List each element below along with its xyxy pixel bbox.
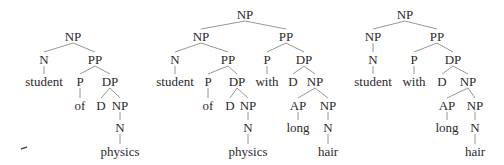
tree-leaf-word: physics <box>229 144 268 159</box>
tree-node-category: NP <box>397 7 414 22</box>
tree-leaf-word: hair <box>318 144 339 159</box>
tree-branch <box>468 88 475 98</box>
tree-node-category: N <box>368 52 378 67</box>
tree-node-category: AP <box>290 98 307 113</box>
tree-node-category: AP <box>439 98 456 113</box>
tree-node-category: NP <box>365 29 382 44</box>
tree-1: NPNPPstudentPDPofDNPNphysics <box>25 29 139 159</box>
tree-node-category: N <box>39 52 49 67</box>
tree-node-category: N <box>470 120 480 135</box>
tree-branch <box>293 66 304 74</box>
tree-2: NPNPPPNPPPDPstudentPDPwithDNPofDNPAPNPNl… <box>156 7 339 159</box>
tree-node-category: P <box>204 74 211 89</box>
tree-node-category: NP <box>320 98 337 113</box>
tree-node-category: NP <box>65 29 82 44</box>
tree-node-category: DP <box>296 52 313 67</box>
tree-leaf-word: of <box>203 98 215 113</box>
tree-node-category: DP <box>445 52 462 67</box>
tree-node-category: D <box>96 98 105 113</box>
tree-leaf-word: student <box>354 74 392 89</box>
tree-node-category: DP <box>102 74 119 89</box>
tree-node-category: PP <box>430 29 444 44</box>
tree-branch <box>298 88 315 98</box>
tree-node-category: D <box>437 74 446 89</box>
tree-branch <box>442 66 453 74</box>
tree-3: NPNPPPNPDPstudentwithDNPAPNPlongNhair <box>354 7 486 159</box>
tree-node-category: N <box>243 120 253 135</box>
syntax-tree-figure: NPNPPstudentPDPofDNPNphysicsNPNPPPNPPPDP… <box>0 0 504 165</box>
stray-dash-mark <box>21 147 27 149</box>
tree-leaf-word: physics <box>101 144 140 159</box>
tree-node-category: NP <box>193 29 210 44</box>
tree-branch <box>101 88 110 98</box>
tree-node-category: PP <box>279 29 293 44</box>
tree-branch <box>228 66 237 74</box>
tree-leaf-word: long <box>286 120 310 135</box>
tree-branch <box>201 43 228 52</box>
tree-node-category: NP <box>467 98 484 113</box>
tree-branch <box>315 88 328 98</box>
tree-node-category: PP <box>221 52 235 67</box>
tree-node-category: P <box>263 52 270 67</box>
tree-branch <box>95 66 110 74</box>
tree-branch <box>80 66 95 74</box>
tree-leaf-word: of <box>75 98 87 113</box>
tree-branch <box>208 66 228 74</box>
tree-branch <box>201 21 245 29</box>
tree-node-category: P <box>410 52 417 67</box>
tree-branch <box>437 43 453 52</box>
tree-branch <box>286 43 304 52</box>
tree-leaf-word: with <box>402 74 426 89</box>
tree-labels: NPNPPstudentPDPofDNPNphysicsNPNPPPNPPPDP… <box>25 7 486 159</box>
tree-leaf-word: long <box>435 120 459 135</box>
tree-node-category: NP <box>112 98 129 113</box>
tree-node-category: N <box>115 120 125 135</box>
tree-branch <box>44 43 73 52</box>
tree-branch <box>73 43 95 52</box>
tree-node-category: NP <box>307 74 324 89</box>
tree-node-category: NP <box>460 74 477 89</box>
tree-node-category: NP <box>240 98 257 113</box>
tree-leaf-word: with <box>255 74 279 89</box>
tree-node-category: DP <box>229 74 246 89</box>
tree-branch <box>267 43 286 52</box>
tree-branch <box>237 88 248 98</box>
tree-branch <box>453 66 468 74</box>
tree-leaf-word: student <box>156 74 194 89</box>
tree-node-category: PP <box>88 52 102 67</box>
tree-node-category: D <box>288 74 297 89</box>
tree-branch <box>304 66 315 74</box>
tree-branch <box>175 43 201 52</box>
tree-branch <box>405 21 437 29</box>
tree-branch <box>414 43 437 52</box>
tree-node-category: N <box>323 120 333 135</box>
tree-branch <box>245 21 286 29</box>
tree-branch <box>373 21 405 29</box>
tree-leaf-word: student <box>25 74 63 89</box>
tree-node-category: N <box>170 52 180 67</box>
tree-branch <box>110 88 120 98</box>
tree-node-category: P <box>76 74 83 89</box>
tree-branch <box>447 88 468 98</box>
tree-node-category: D <box>225 98 234 113</box>
stray-marks <box>21 147 27 149</box>
tree-1-edges <box>44 43 120 144</box>
tree-branch <box>230 88 237 98</box>
tree-node-category: NP <box>237 7 254 22</box>
tree-leaf-word: hair <box>465 144 486 159</box>
